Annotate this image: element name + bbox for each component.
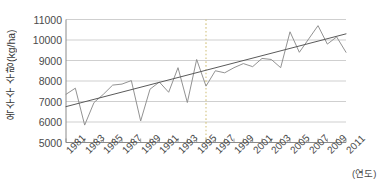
x-axis-unit-label: (연도) [352, 166, 376, 180]
corn-yield-chart: 옥수수 수량(kg/ha) 11000100009000800070006000… [0, 0, 390, 189]
plot-area [0, 0, 390, 189]
data-series-line [66, 26, 346, 125]
